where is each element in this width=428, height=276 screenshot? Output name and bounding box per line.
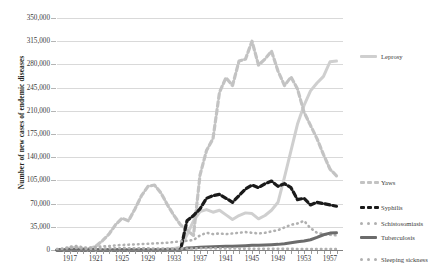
x-tick-mark xyxy=(194,251,195,254)
legend-label: Syphilis xyxy=(381,204,403,211)
legend-label: Tuberculosis xyxy=(381,234,415,241)
x-tick-mark xyxy=(233,251,234,254)
x-tick-mark xyxy=(291,251,292,254)
x-tick-mark xyxy=(168,251,169,254)
x-tick-mark xyxy=(161,251,162,254)
x-tick-label: 1957 xyxy=(315,255,345,263)
x-tick-mark xyxy=(148,251,149,254)
legend-item-schistosomiasis[interactable]: Schistosomiasis xyxy=(360,219,423,227)
legend-label: Yaws xyxy=(381,179,395,186)
x-tick-mark xyxy=(278,251,279,254)
y-tick-mark xyxy=(51,250,56,251)
y-tick-label: 35,000 xyxy=(6,223,50,231)
legend-label: Schistosomiasis xyxy=(381,220,423,227)
x-tick-mark xyxy=(83,251,84,254)
x-tick-mark xyxy=(109,251,110,254)
x-tick-mark xyxy=(337,251,338,254)
x-tick-mark xyxy=(272,251,273,254)
x-tick-mark xyxy=(207,251,208,254)
x-tick-mark xyxy=(181,251,182,254)
legend-swatch xyxy=(360,206,377,209)
y-tick-mark xyxy=(51,64,56,65)
legend-item-sleeping-sickness[interactable]: Sleeping sickness xyxy=(360,255,428,263)
x-tick-mark xyxy=(226,251,227,254)
y-tick-label: 315,000 xyxy=(6,37,50,45)
y-tick-mark xyxy=(51,111,56,112)
legend-swatch xyxy=(360,258,377,261)
y-tick-label: 245,000 xyxy=(6,84,50,92)
legend-swatch xyxy=(360,236,377,239)
x-tick-mark xyxy=(220,251,221,254)
y-tick-mark xyxy=(51,204,56,205)
x-tick-mark xyxy=(317,251,318,254)
x-tick-mark xyxy=(103,251,104,254)
y-tick-label: 210,000 xyxy=(6,107,50,115)
x-tick-mark xyxy=(174,251,175,254)
legend-swatch xyxy=(360,181,377,184)
y-tick-label: 280,000 xyxy=(6,60,50,68)
y-tick-mark xyxy=(51,157,56,158)
legend-item-syphilis[interactable]: Syphilis xyxy=(360,203,403,211)
y-tick-label: 70,000 xyxy=(6,200,50,208)
x-tick-mark xyxy=(285,251,286,254)
x-tick-mark xyxy=(90,251,91,254)
x-tick-mark xyxy=(324,251,325,254)
legend-swatch xyxy=(360,222,377,225)
legend-label: Sleeping sickness xyxy=(381,256,428,263)
x-tick-mark xyxy=(213,251,214,254)
y-tick-label: 175,000 xyxy=(6,130,50,138)
x-tick-mark xyxy=(155,251,156,254)
y-tick-mark xyxy=(51,88,56,89)
x-tick-mark xyxy=(298,251,299,254)
x-tick-mark xyxy=(70,251,71,254)
x-tick-mark xyxy=(252,251,253,254)
series-lines xyxy=(57,18,343,250)
plot-area xyxy=(57,18,343,250)
legend-label: Leprosy xyxy=(381,53,403,60)
x-tick-mark xyxy=(142,251,143,254)
x-tick-mark xyxy=(122,251,123,254)
legend-item-leprosy[interactable]: Leprosy xyxy=(360,52,403,60)
x-tick-mark xyxy=(259,251,260,254)
y-tick-label: 350,000 xyxy=(6,14,50,22)
series-line-yaws xyxy=(57,41,337,250)
series-line-sleeping-sickness xyxy=(57,248,337,249)
x-tick-mark xyxy=(239,251,240,254)
series-line-leprosy xyxy=(57,61,337,250)
y-tick-mark xyxy=(51,180,56,181)
x-tick-mark xyxy=(129,251,130,254)
y-tick-mark xyxy=(51,41,56,42)
y-tick-label: 0 xyxy=(6,246,50,254)
x-tick-mark xyxy=(304,251,305,254)
x-tick-mark xyxy=(64,251,65,254)
x-tick-mark xyxy=(311,251,312,254)
x-tick-mark xyxy=(246,251,247,254)
legend-item-tuberculosis[interactable]: Tuberculosis xyxy=(360,233,415,241)
y-tick-label: 140,000 xyxy=(6,153,50,161)
x-tick-mark xyxy=(116,251,117,254)
y-tick-mark xyxy=(51,227,56,228)
x-tick-mark xyxy=(200,251,201,254)
x-tick-mark xyxy=(330,251,331,254)
x-tick-mark xyxy=(135,251,136,254)
y-tick-mark xyxy=(51,18,56,19)
x-tick-mark xyxy=(265,251,266,254)
x-tick-mark xyxy=(77,251,78,254)
legend-swatch xyxy=(360,55,377,58)
y-tick-mark xyxy=(51,134,56,135)
y-tick-label: 105,000 xyxy=(6,176,50,184)
x-tick-mark xyxy=(96,251,97,254)
x-tick-mark xyxy=(187,251,188,254)
legend-item-yaws[interactable]: Yaws xyxy=(360,178,395,186)
